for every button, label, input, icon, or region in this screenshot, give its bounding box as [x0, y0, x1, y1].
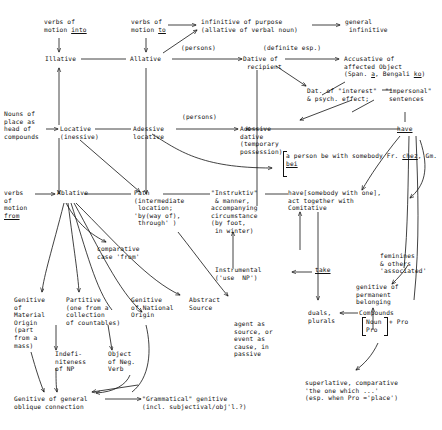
node-object-of-neg-verb: Object of Neg. Verb — [108, 350, 135, 373]
node-path: Path (intermediate location; 'by(way of)… — [134, 189, 184, 227]
node-have-somebody-with-one: have[somebody with one], act together wi… — [288, 189, 381, 212]
node-take: take — [315, 266, 331, 274]
node-superlative-comparative: superlative, comparative 'the one which … — [305, 379, 398, 402]
node-verbs-motion-into: verbs of motion into — [44, 18, 87, 33]
node-genitive-national-origin: Genitive of National Origin — [131, 296, 174, 319]
label-persons-top: (persons) — [181, 44, 216, 52]
node-indefiniteness-of-np: Indefi- niteness of NP — [55, 350, 86, 373]
node-dative-of-recipient: Dative of recipient — [243, 55, 282, 70]
node-accusative-affected-object: Accusative of affected Object (Span. a, … — [344, 55, 425, 78]
compounds-left-brace — [362, 317, 366, 336]
node-verbs-motion-to: verbs of motion to — [131, 18, 166, 33]
node-genitive-material-origin: Genitive of Material Origin (part from a… — [14, 296, 45, 349]
node-instruktiv: "Instruktiv" & manner, accompanying circ… — [211, 189, 258, 235]
node-person-box: a person be with somebody Fr. chez, Gm. … — [286, 152, 442, 167]
node-genitive-general-oblique: Genitive of general oblique connection — [14, 395, 88, 410]
label-definite-esp: (definite esp.) — [263, 44, 321, 52]
node-instrumental: Instrumental ('use NP') — [215, 266, 262, 281]
node-duals-plurals: duals, plurals — [308, 309, 335, 324]
node-abstract-source: Abstract Source — [189, 296, 220, 311]
node-illative: Illative — [45, 55, 76, 63]
node-infinitive-of-purpose: infinitive of purpose (allative of verba… — [201, 18, 298, 33]
node-locative: Locative (inessive) — [60, 125, 99, 140]
diagram-canvas: verbs of motion into verbs of motion to … — [0, 0, 442, 430]
node-adessive-dative: Adessive dative (temporary possession) — [240, 125, 283, 155]
node-compounds-brace-content: Noun Pro — [366, 318, 382, 333]
node-impersonal-sentences: "impersonal" sentences — [385, 87, 432, 102]
node-agent-as-source: agent as source, or event as cause, in p… — [234, 320, 273, 358]
node-general-infinitive: general infinitive — [345, 18, 388, 33]
node-verbs-motion-from: verbs of motion from — [4, 189, 27, 219]
node-adessive-locative: Adessive locative — [133, 125, 164, 140]
node-partitive: Partitive (one from a collection of coun… — [66, 296, 120, 326]
compounds-right-brace — [384, 317, 388, 336]
label-persons-mid: (persons) — [182, 113, 217, 121]
node-nouns-of-place: Nouns of place as head of compounds — [4, 110, 39, 140]
node-have: have — [397, 125, 413, 133]
person-box-bracket — [283, 151, 287, 177]
node-compounds-plus-pro: + Pro — [389, 318, 408, 326]
node-dat-of-interest: Dat. of "interest" & psych. effect; — [307, 87, 377, 102]
node-grammatical-genitive: "Grammatical" genitive (incl. subjectiva… — [142, 395, 247, 410]
node-comparative-case: comparative case 'from' — [97, 245, 140, 260]
node-compounds: Compounds — [359, 309, 394, 317]
node-ablative: Ablative — [57, 189, 88, 197]
node-allative: Allative — [130, 55, 161, 63]
node-feminines-others: feminines & others 'associated' — [380, 252, 427, 275]
node-genitive-permanent-belonging: genitive of permanent belonging — [356, 283, 399, 306]
